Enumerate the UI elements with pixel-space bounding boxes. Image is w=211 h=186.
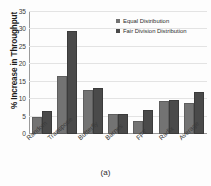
y-axis-tick-label: 20 bbox=[19, 60, 26, 67]
x-tick-cell: Average bbox=[182, 134, 207, 168]
legend-label: Fair Division Distribution bbox=[123, 28, 187, 34]
y-axis-tick-label: 25 bbox=[19, 42, 26, 49]
x-axis-tick-labels: RandomTransposeButterflyBarnesFFTRadixAv… bbox=[29, 134, 207, 168]
x-tick-cell: FFT bbox=[131, 134, 156, 168]
y-axis-tick-label: 15 bbox=[19, 77, 26, 84]
legend-swatch-icon bbox=[116, 29, 120, 33]
figure-caption: (a) bbox=[0, 168, 211, 177]
legend-item: Fair Division Distribution bbox=[116, 28, 187, 34]
bar-chart-figure: % Increase in Throughput 35302520151050 … bbox=[0, 0, 211, 186]
bar-group bbox=[29, 12, 54, 134]
y-axis-title: % Increase in Throughput bbox=[10, 1, 19, 121]
chart-legend: Equal DistributionFair Division Distribu… bbox=[116, 18, 187, 38]
y-axis-tick-label: 30 bbox=[19, 25, 26, 32]
x-tick-cell: Transpose bbox=[54, 134, 79, 168]
x-tick-cell: Barnes bbox=[105, 134, 130, 168]
bar-group bbox=[80, 12, 105, 134]
x-tick-cell: Butterfly bbox=[80, 134, 105, 168]
y-axis-tick-label: 5 bbox=[22, 112, 26, 119]
y-axis-tick-label: 35 bbox=[19, 8, 26, 15]
legend-label: Equal Distribution bbox=[123, 18, 169, 24]
legend-item: Equal Distribution bbox=[116, 18, 187, 24]
x-tick-cell: Radix bbox=[156, 134, 181, 168]
y-axis-tick-label: 10 bbox=[19, 95, 26, 102]
legend-swatch-icon bbox=[116, 19, 120, 23]
